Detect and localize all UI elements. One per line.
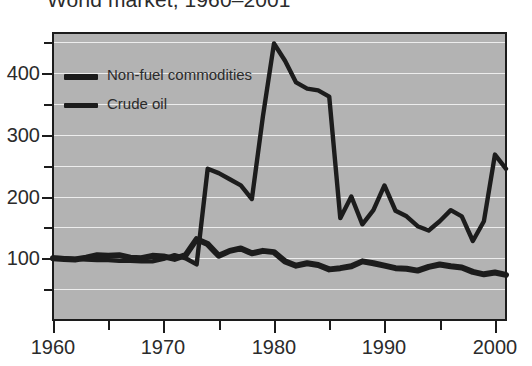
x-axis-tick	[274, 321, 276, 333]
x-axis-minor-tick	[108, 321, 110, 330]
y-axis-label: 400	[0, 63, 40, 83]
series-line-non-fuel-commodities	[53, 239, 506, 275]
series-layer	[0, 0, 532, 366]
y-axis-minor-tick	[44, 42, 53, 44]
y-axis-tick	[42, 135, 53, 137]
y-axis-label: 200	[0, 187, 40, 207]
y-axis-minor-tick	[44, 166, 53, 168]
x-axis-label: 2000	[460, 336, 530, 358]
legend-thick-line-swatch	[64, 74, 98, 80]
x-axis-minor-tick	[440, 321, 442, 330]
x-axis-tick	[495, 321, 497, 333]
x-axis-label: 1960	[18, 336, 88, 358]
y-axis-tick	[42, 73, 53, 75]
legend-thin-line-swatch	[64, 103, 98, 108]
x-axis-minor-tick	[219, 321, 221, 330]
y-axis-minor-tick	[44, 289, 53, 291]
legend-label: Crude oil	[107, 95, 167, 112]
y-axis-minor-tick	[44, 104, 53, 106]
legend-label: Non-fuel commodities	[107, 66, 252, 83]
x-axis-minor-tick	[329, 321, 331, 330]
x-axis-label: 1980	[239, 336, 309, 358]
x-axis-tick	[384, 321, 386, 333]
y-axis-minor-tick	[44, 227, 53, 229]
chart-figure: World market, 1960–2001 1002003004001960…	[0, 0, 532, 366]
x-axis-label: 1970	[128, 336, 198, 358]
y-axis-tick	[42, 197, 53, 199]
x-axis-tick	[53, 321, 55, 333]
y-axis-tick	[42, 258, 53, 260]
y-axis-label: 100	[0, 248, 40, 268]
x-axis-tick	[163, 321, 165, 333]
x-axis-label: 1990	[349, 336, 419, 358]
y-axis-label: 300	[0, 125, 40, 145]
